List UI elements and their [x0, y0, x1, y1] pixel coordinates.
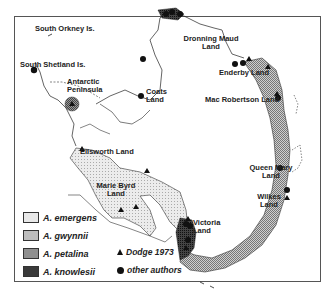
label-queen-mary-land: Queen MaryLand: [248, 164, 294, 180]
other-authors-markers: [31, 9, 290, 243]
gwynnii-swatch-icon: [23, 230, 39, 241]
label-ellsworth-land: Ellsworth Land: [80, 148, 134, 156]
label-south-shetland: South Shetland Is.: [20, 61, 85, 69]
label-dronning-maud-land: Dronning MaudLand: [182, 35, 240, 51]
knowlesii-swatch-icon: [23, 266, 39, 277]
label-south-orkney: South Orkney Is.: [35, 25, 95, 33]
label-marie-byrd-land: Marie ByrdLand: [96, 182, 136, 198]
legend-item-emergens: A. emergens: [23, 212, 97, 223]
petalina-swatch-icon: [23, 248, 39, 259]
legend-item-knowlesii: A. knowlesii: [23, 266, 95, 277]
label-antarctic-peninsula: AntarcticPeninsula: [67, 78, 102, 94]
label-victoria-land: VictoriaLand: [193, 219, 220, 235]
triangle-icon: [117, 249, 123, 255]
label-enderby-land: Enderby Land: [219, 69, 269, 77]
legend-item-gwynnii: A. gwynnii: [23, 230, 88, 241]
label-wilkes-land: WilkesLand: [256, 193, 282, 209]
legend-item-petalina: A. petalina: [23, 248, 89, 259]
circle-icon: [117, 267, 124, 274]
label-coats-land: CoatsLand: [146, 88, 167, 104]
legend-item-dodge-1973: Dodge 1973: [117, 247, 174, 257]
label-mac-robertson-land: Mac Robertson Land: [205, 96, 279, 104]
legend-item-other-authors: other authors: [117, 265, 182, 275]
emergens-swatch-icon: [23, 212, 39, 223]
